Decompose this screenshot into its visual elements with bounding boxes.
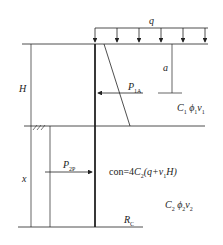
surcharge-load [95, 28, 208, 42]
label-q: q [149, 16, 154, 26]
con-formula: con=4C2(q+v1H) [109, 167, 177, 179]
label-P2P: P2P [63, 160, 75, 172]
active-pressure-line [104, 44, 130, 126]
layer1-params: C1 ϕ1v1 [177, 103, 205, 115]
label-a: a [163, 63, 168, 73]
layer2-params: C2 ϕ2v2 [165, 200, 193, 212]
label-x: x [22, 174, 26, 184]
label-H: H [19, 84, 26, 94]
label-Rc: RC [124, 215, 134, 227]
label-P1A: P1A [128, 82, 141, 94]
